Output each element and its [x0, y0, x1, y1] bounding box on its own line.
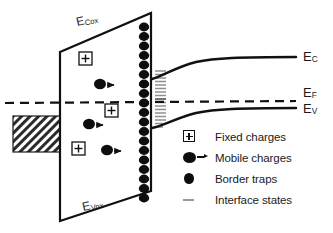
- legend-item-border-traps: Border traps: [181, 168, 331, 189]
- conduction-band-label: EC: [303, 50, 318, 64]
- legend-label-fixed-charges: Fixed charges: [215, 131, 286, 143]
- interface-state-icon: [181, 189, 215, 210]
- interface-states-ticks: [155, 71, 166, 127]
- valence-band-curve: [152, 108, 296, 128]
- border-traps-column: [139, 23, 149, 203]
- figure-canvas: ECox EVox EC EF EV Fixed charges Mobile …: [0, 0, 333, 233]
- border-trap-icon: [181, 168, 215, 189]
- conduction-band-curve: [152, 57, 296, 79]
- fixed-charge-symbols: [72, 52, 118, 155]
- legend-item-mobile-charges: Mobile charges: [181, 147, 331, 168]
- mobile-charge-icon: [181, 147, 215, 168]
- legend: Fixed charges Mobile charges Border trap…: [181, 126, 331, 210]
- boxed-plus-icon: [181, 126, 215, 147]
- valence-band-label: EV: [303, 102, 317, 116]
- legend-label-mobile-charges: Mobile charges: [215, 152, 292, 164]
- metal-gate-hatched-region: [13, 116, 60, 152]
- legend-item-fixed-charges: Fixed charges: [181, 126, 331, 147]
- legend-item-interface-states: Interface states: [181, 189, 331, 210]
- legend-label-interface-states: Interface states: [215, 194, 292, 206]
- fermi-level-label: EF: [303, 86, 317, 100]
- legend-label-border-traps: Border traps: [215, 173, 277, 185]
